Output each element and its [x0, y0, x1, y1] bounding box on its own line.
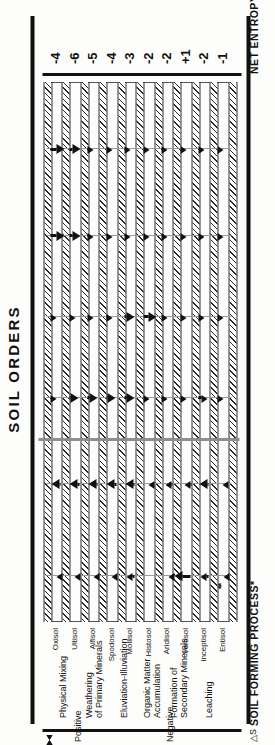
entropy-header: NET ENTROPY CHANGE (△S)*** — [247, 0, 260, 74]
row-separator — [154, 82, 163, 622]
row-separator — [135, 82, 144, 622]
entropy-value-inceptisol: -2 — [196, 52, 211, 64]
delta-s-symbol: △S — [247, 729, 257, 742]
process-label-line1: Leaching — [203, 681, 213, 718]
entropy-value-aridisol: -2 — [159, 52, 174, 64]
top-rule — [30, 16, 34, 724]
row-separator — [191, 82, 200, 622]
entropy-axis-rule — [42, 74, 241, 77]
entropy-value-mollisol: -3 — [122, 52, 137, 64]
process-label-line2: of Primary Minerals — [93, 640, 103, 718]
entropy-value-oxisol: -4 — [48, 52, 63, 64]
process-label-weathering-primary-minerals: Weatheringof Primary Minerals — [83, 640, 103, 718]
row-separator — [80, 82, 89, 622]
entropy-value-entisol: -1 — [214, 52, 229, 64]
sign-negative-label: Negative — [164, 706, 174, 742]
footnote-marker: ** — [218, 584, 223, 589]
row-separator — [61, 82, 70, 622]
soil-order-label-histosol: Histosol — [143, 628, 152, 656]
soil-order-label-inceptisol: Inceptisol — [199, 628, 208, 662]
figure-title: SOIL ORDERS — [4, 254, 21, 484]
sign-group-divider — [38, 438, 239, 441]
entropy-value-vertisol: +1 — [177, 49, 192, 64]
process-label-line1: Physical Mixing — [57, 656, 67, 718]
process-label-line1: Organic Matter — [141, 658, 151, 718]
soil-order-label-vertisol: Vertisol — [180, 628, 189, 654]
entropy-value-spodosol: -4 — [103, 52, 118, 64]
process-label-line2: Accumulation — [151, 658, 161, 718]
soil-order-label-mollisol: Mollisol — [125, 628, 134, 655]
row-separator — [117, 82, 126, 622]
process-header: SOIL FORMING PROCESS* — [247, 580, 259, 726]
row-separator — [98, 82, 107, 622]
row-separator — [228, 82, 237, 622]
process-label-organic-matter-accumulation: Organic MatterAccumulation — [141, 658, 161, 718]
plot-grid: ** — [46, 82, 231, 622]
soil-order-label-alfisol: Alfisol — [88, 628, 97, 649]
soil-order-label-spodosol: Spodosol — [106, 628, 115, 661]
soil-order-label-entisol: Entisol — [217, 628, 226, 652]
soil-order-label-ultisol: Ultisol — [69, 628, 78, 650]
sign-positive-label: Positive — [72, 710, 82, 742]
row-separator — [43, 82, 52, 622]
process-label-physical-mixing: Physical Mixing — [57, 656, 67, 718]
soil-order-label-oxisol: Oxisol — [51, 628, 60, 650]
process-label-line1: Weathering — [83, 640, 93, 718]
entropy-value-alfisol: -5 — [85, 52, 100, 64]
process-label-leaching: Leaching — [203, 681, 213, 718]
row-separator — [209, 82, 218, 622]
row-separator — [172, 82, 181, 622]
entropy-value-histosol: -2 — [140, 52, 155, 64]
soil-order-label-aridisol: Aridisol — [162, 628, 171, 654]
entropy-value-ultisol: -6 — [66, 52, 81, 64]
